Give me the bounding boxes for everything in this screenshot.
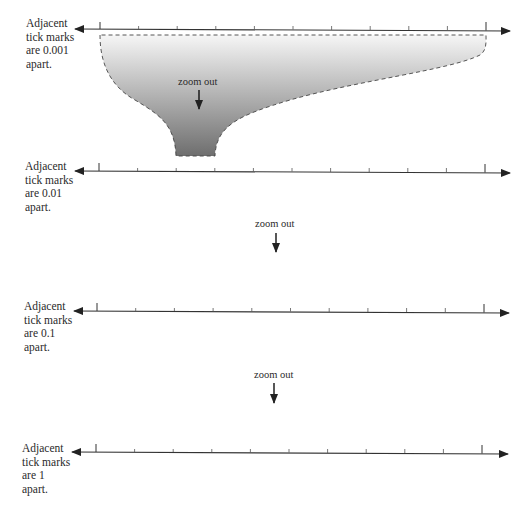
caption-row-4: Adjacent tick marks are 1 apart.: [22, 442, 70, 496]
caption-line: apart.: [22, 483, 70, 497]
caption-line: apart.: [26, 58, 74, 72]
caption-line: apart.: [24, 341, 72, 355]
zoom-out-label: zoom out: [178, 76, 217, 87]
caption-row-1: Adjacent tick marks are 0.001 apart.: [26, 17, 74, 71]
caption-row-3: Adjacent tick marks are 0.1 apart.: [24, 300, 72, 354]
caption-line: tick marks: [24, 314, 72, 328]
caption-line: Adjacent: [22, 442, 70, 456]
caption-line: are 0.1: [24, 327, 72, 341]
caption-line: are 1: [22, 469, 70, 483]
caption-line: apart.: [25, 201, 73, 215]
caption-line: Adjacent: [26, 17, 74, 31]
caption-line: are 0.001: [26, 44, 74, 58]
caption-line: tick marks: [22, 456, 70, 470]
number-line-4: [72, 444, 508, 454]
zoom-funnel: [100, 35, 486, 156]
caption-line: Adjacent: [25, 160, 73, 174]
number-line-diagram: [0, 0, 532, 515]
caption-line: tick marks: [25, 174, 73, 188]
caption-row-2: Adjacent tick marks are 0.01 apart.: [25, 160, 73, 214]
caption-line: are 0.01: [25, 187, 73, 201]
caption-line: Adjacent: [24, 300, 72, 314]
caption-line: tick marks: [26, 31, 74, 45]
zoom-out-label: zoom out: [255, 218, 294, 229]
number-line-1: [75, 22, 510, 31]
zoom-out-label: zoom out: [254, 369, 293, 380]
number-line-2: [75, 163, 510, 173]
number-line-3: [74, 303, 509, 313]
